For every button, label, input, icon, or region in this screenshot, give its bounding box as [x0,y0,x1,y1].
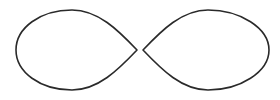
left-lobe-shape [16,10,137,90]
right-lobe-shape [143,10,269,90]
figure-eight-drawing [0,0,280,100]
figure-canvas [0,0,280,100]
